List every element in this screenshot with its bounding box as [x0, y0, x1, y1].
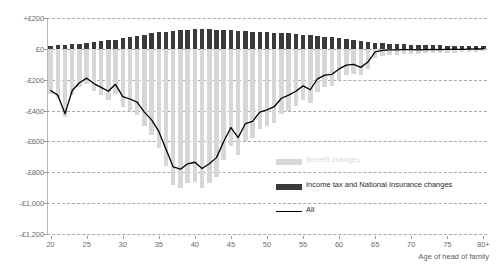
x-axis-tick-label: 35	[155, 240, 163, 249]
legend-label-income-tax-ni: Income tax and National Insurance change…	[306, 180, 452, 189]
x-axis-tick-label: 60	[335, 240, 343, 249]
y-axis-tick-label: -£200	[25, 75, 44, 84]
y-axis-tick-mark	[44, 234, 48, 235]
y-axis-tick-label: -£400	[25, 106, 44, 115]
x-axis-tick-label: 45	[227, 240, 235, 249]
x-axis-tick-mark	[447, 236, 448, 239]
y-axis-tick-label: £0	[36, 44, 44, 53]
x-axis-tick-label: 55	[299, 240, 307, 249]
x-axis-label-group: 20253035404550556065707580+	[47, 236, 487, 250]
x-axis-tick-mark	[123, 236, 124, 239]
legend-label-benefit-changes: Benefit changes	[306, 155, 360, 164]
x-axis-tick-label: 75	[443, 240, 451, 249]
x-axis-tick-label: 20	[46, 240, 54, 249]
x-axis-tick-mark	[267, 236, 268, 239]
y-axis-tick-label: -£800	[25, 168, 44, 177]
legend-swatch-benefit-changes	[276, 159, 302, 165]
y-axis-tick-label: +£200	[23, 14, 44, 23]
x-axis-tick-label: 30	[119, 240, 127, 249]
y-axis-tick-label: -£600	[25, 137, 44, 146]
chart-legend: Benefit changes Income tax and National …	[276, 150, 491, 225]
x-axis-tick-mark	[51, 236, 52, 239]
legend-item-income-tax-ni: Income tax and National Insurance change…	[276, 175, 491, 200]
y-axis-label-group: +£200£0-£200-£400-£600-£800-£1,000-£1,20…	[0, 0, 44, 276]
x-axis-tick-mark	[411, 236, 412, 239]
x-axis-tick-mark	[195, 236, 196, 239]
y-axis-tick-label: -£1,200	[19, 230, 44, 239]
legend-line-all	[276, 211, 302, 212]
x-axis-tick-mark	[159, 236, 160, 239]
y-axis-tick-label: -£1,000	[19, 199, 44, 208]
x-axis-title: Age of head of family	[419, 252, 489, 261]
x-axis-tick-label: 70	[407, 240, 415, 249]
x-axis-tick-mark	[339, 236, 340, 239]
legend-swatch-income-tax-ni	[276, 184, 302, 190]
legend-item-benefit-changes: Benefit changes	[276, 150, 491, 175]
x-axis-tick-mark	[231, 236, 232, 239]
legend-item-all: All	[276, 200, 491, 225]
chart-container: +£200£0-£200-£400-£600-£800-£1,000-£1,20…	[0, 0, 501, 276]
x-axis-tick-mark	[303, 236, 304, 239]
x-axis-tick-label: 65	[371, 240, 379, 249]
gridline	[47, 234, 487, 235]
x-axis-tick-mark	[375, 236, 376, 239]
x-axis-tick-label: 25	[83, 240, 91, 249]
legend-label-all: All	[306, 205, 314, 214]
x-axis-tick-label: 50	[263, 240, 271, 249]
x-axis-tick-mark	[483, 236, 484, 239]
x-axis-tick-label: 40	[191, 240, 199, 249]
x-axis-tick-mark	[87, 236, 88, 239]
x-axis-tick-label: 80+	[477, 240, 490, 249]
